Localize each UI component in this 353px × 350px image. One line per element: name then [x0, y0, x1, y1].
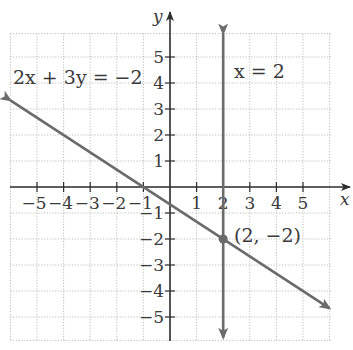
y-axis-label: y: [152, 6, 163, 26]
point-label: (2, −2): [234, 224, 301, 246]
eq2-text: x = 2: [234, 60, 285, 82]
y-tick-label: −2: [139, 229, 164, 249]
x-tick-label: 4: [271, 193, 282, 213]
y-tick-label: −1: [139, 203, 164, 223]
x-tick-label: 1: [191, 193, 202, 213]
y-tick-label: 1: [153, 151, 164, 171]
y-tick-label: 4: [153, 73, 164, 93]
x-tick-label: −3: [75, 193, 100, 213]
equation-label-line1: 2x + 3y = −2: [13, 66, 143, 88]
y-tick-label: 3: [153, 99, 164, 119]
equation-label-line2: x = 2: [234, 60, 285, 82]
eq1-text: 2x + 3y = −2: [13, 66, 143, 88]
x-tick-label: −2: [101, 193, 126, 213]
y-tick-label: 2: [153, 125, 164, 145]
y-tick-label: 5: [153, 47, 164, 67]
x-tick-label: 5: [298, 193, 309, 213]
x-tick-label: 3: [244, 193, 255, 213]
x-tick-label: −4: [48, 193, 73, 213]
coordinate-graph: −5−4−3−2−11234554321−1−2−3−4−5 x y 2x + …: [0, 0, 353, 350]
x-tick-label: −5: [21, 193, 46, 213]
y-tick-label: −5: [139, 307, 164, 327]
y-tick-label: −3: [139, 255, 164, 275]
x-axis-label: x: [340, 189, 350, 209]
y-tick-label: −4: [139, 281, 164, 301]
intersection-point: [219, 235, 228, 244]
